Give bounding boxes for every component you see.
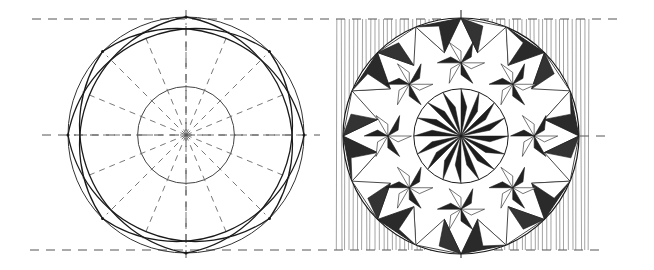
diagram-canvas: Rosette chip-carving construction and fi… bbox=[0, 0, 654, 270]
carved-rosette bbox=[343, 18, 579, 254]
rosette-drawing bbox=[0, 0, 654, 270]
